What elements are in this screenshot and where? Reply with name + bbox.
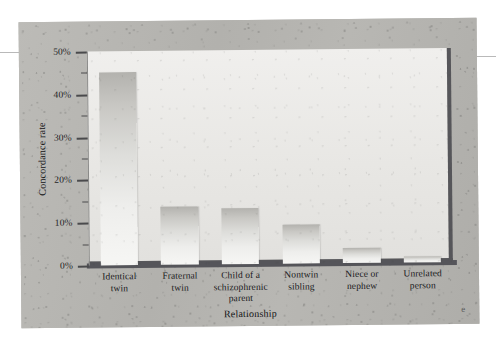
- x-axis-tick-label: Child of aschizophrenicparent: [210, 270, 271, 305]
- bar: [161, 207, 199, 265]
- page-corner-mark: e: [461, 304, 465, 314]
- bars-layer: [87, 48, 453, 265]
- page-root: 0%10%20%30%40%50% Concordance rate Ident…: [0, 0, 496, 345]
- x-axis-tick-label: Nontwinsibling: [271, 269, 332, 293]
- y-axis-tick-major: [78, 266, 89, 268]
- y-axis-tick-major: [76, 94, 87, 96]
- figure-panel: 0%10%20%30%40%50% Concordance rate Ident…: [19, 18, 480, 328]
- x-axis-tick-label: Identicaltwin: [89, 271, 150, 295]
- y-axis-tick-label: 30%: [54, 132, 72, 142]
- x-axis-tick-label: Unrelatedperson: [392, 268, 453, 292]
- y-axis-title: Concordance rate: [36, 122, 48, 196]
- bar: [221, 208, 259, 264]
- y-axis-tick-label: 0%: [60, 261, 73, 271]
- y-axis-tick-major: [77, 223, 88, 225]
- bar: [282, 225, 320, 264]
- y-axis-tick-major: [76, 52, 87, 54]
- y-axis-tick-label: 40%: [53, 89, 71, 99]
- y-axis-ticks: 0%10%20%30%40%50%: [19, 18, 477, 22]
- y-axis-tick-major: [77, 180, 88, 182]
- x-axis-tick-label: Fraternaltwin: [150, 270, 211, 294]
- y-axis-tick-label: 50%: [53, 47, 71, 57]
- y-axis-tick-major: [77, 137, 88, 139]
- bar: [404, 256, 442, 263]
- bar: [343, 248, 381, 263]
- y-axis-tick-label: 20%: [54, 175, 72, 185]
- bar-chart: 0%10%20%30%40%50% Concordance rate Ident…: [19, 18, 480, 328]
- x-axis-tick-label: Niece ornephew: [332, 269, 393, 293]
- y-axis-tick-label: 10%: [55, 218, 73, 228]
- bar: [99, 72, 138, 265]
